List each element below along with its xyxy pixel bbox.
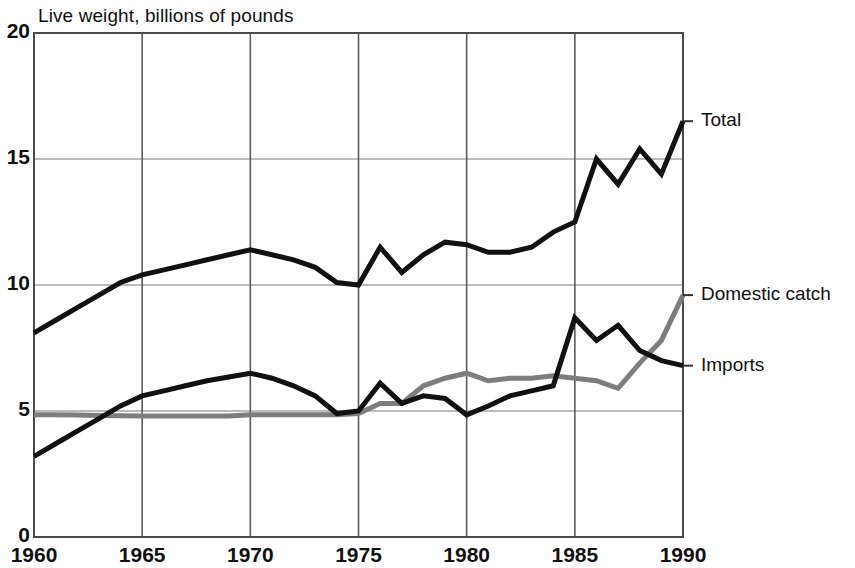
x-tick-1990: 1990 [643,543,723,567]
y-tick-10: 10 [0,271,30,295]
x-tick-1960: 1960 [0,543,74,567]
x-tick-1965: 1965 [102,543,182,567]
x-tick-1975: 1975 [319,543,399,567]
x-tick-1985: 1985 [535,543,615,567]
series-label-imports: Imports [701,354,764,376]
y-tick-20: 20 [0,19,30,43]
chart-container: Live weight, billions of pounds 05101520… [0,0,855,568]
series-label-ticks [683,121,693,365]
x-tick-1970: 1970 [210,543,290,567]
series-label-total: Total [701,109,741,131]
y-tick-5: 5 [0,397,30,421]
x-tick-1980: 1980 [427,543,507,567]
y-tick-15: 15 [0,145,30,169]
series-label-domestic-catch: Domestic catch [701,283,831,305]
